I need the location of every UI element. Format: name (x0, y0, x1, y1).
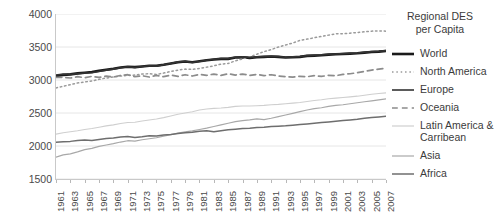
x-tick-mark (343, 180, 344, 183)
x-tick: 1989 (251, 180, 263, 216)
x-tick-mark (286, 180, 287, 183)
x-tick: 1993 (280, 180, 292, 216)
x-tick: 1997 (308, 180, 320, 216)
x-tick: 2005 (366, 180, 378, 216)
y-tick-label: 4000 (0, 9, 52, 19)
x-tick: 1973 (136, 180, 148, 216)
legend-item[interactable]: Africa (392, 168, 498, 180)
legend-swatch-icon (392, 48, 414, 59)
plot-area (56, 14, 386, 179)
x-tick: 2007 (380, 180, 392, 216)
x-tick: 2001 (337, 180, 349, 216)
x-tick: 1999 (323, 180, 335, 216)
x-tick-mark (171, 180, 172, 183)
x-tick-mark (214, 180, 215, 183)
legend-item-label: North America (420, 66, 487, 78)
x-tick: 2003 (351, 180, 363, 216)
series-line (56, 51, 386, 75)
x-tick-mark (372, 180, 373, 183)
legend-item-label: Asia (420, 150, 440, 162)
series-line (56, 116, 386, 142)
y-tick-label: 3000 (0, 75, 52, 85)
x-tick-mark (156, 180, 157, 183)
x-tick-mark (99, 180, 100, 183)
legend-item-label: Europe (420, 84, 454, 96)
x-tick: 1981 (193, 180, 205, 216)
x-tick-mark (314, 180, 315, 183)
x-tick: 1977 (165, 180, 177, 216)
x-tick-mark (113, 180, 114, 183)
legend-item[interactable]: Latin America &Carribean (392, 120, 498, 143)
x-tick-mark (128, 180, 129, 183)
y-tick-label: 3500 (0, 42, 52, 52)
x-tick: 1983 (208, 180, 220, 216)
x-tick: 1987 (237, 180, 249, 216)
x-tick: 1967 (93, 180, 105, 216)
legend-title-line2: per Capita (392, 23, 488, 36)
legend-item[interactable]: North America (392, 66, 498, 78)
y-axis-labels: 150020002500300035004000 (0, 0, 52, 218)
legend-items: WorldNorth AmericaEuropeOceaniaLatin Ame… (392, 48, 498, 179)
x-axis-labels: 1961196319651967196919711973197519771979… (56, 180, 386, 218)
x-tick-mark (56, 180, 57, 183)
legend-item[interactable]: World (392, 48, 498, 60)
y-tick-label: 2500 (0, 108, 52, 118)
x-tick: 1961 (50, 180, 62, 216)
legend-title: Regional DES per Capita (392, 10, 488, 36)
y-tick-label: 1500 (0, 174, 52, 184)
legend-swatch-icon (392, 150, 414, 161)
x-tick: 1965 (79, 180, 91, 216)
x-tick: 1991 (265, 180, 277, 216)
x-tick-mark (85, 180, 86, 183)
chart-figure: 150020002500300035004000 196119631965196… (0, 0, 500, 218)
series-canvas (56, 14, 386, 179)
x-tick-mark (329, 180, 330, 183)
x-tick: 1971 (122, 180, 134, 216)
legend-item-label: Latin America &Carribean (420, 120, 494, 143)
legend-item-label: World (420, 48, 447, 60)
x-tick-mark (185, 180, 186, 183)
x-tick: 1979 (179, 180, 191, 216)
legend-item[interactable]: Europe (392, 84, 498, 96)
chart-legend: Regional DES per Capita WorldNorth Ameri… (392, 10, 498, 186)
legend-swatch-icon (392, 102, 414, 113)
legend-item[interactable]: Asia (392, 150, 498, 162)
x-tick-mark (386, 180, 387, 183)
legend-swatch-icon (392, 66, 414, 77)
x-tick-mark (357, 180, 358, 183)
y-tick-label: 2000 (0, 141, 52, 151)
x-tick: 1963 (64, 180, 76, 216)
x-tick-mark (300, 180, 301, 183)
x-tick-mark (199, 180, 200, 183)
x-tick-mark (257, 180, 258, 183)
x-tick-mark (70, 180, 71, 183)
legend-item[interactable]: Oceania (392, 102, 498, 114)
x-tick: 1985 (222, 180, 234, 216)
x-tick-mark (243, 180, 244, 183)
x-tick-mark (142, 180, 143, 183)
series-line (56, 51, 386, 76)
legend-swatch-icon (392, 120, 414, 131)
legend-swatch-icon (392, 84, 414, 95)
legend-item-label: Oceania (420, 102, 459, 114)
legend-item-label: Africa (420, 168, 447, 180)
x-tick-label: 2007 (386, 191, 395, 212)
x-tick: 1995 (294, 180, 306, 216)
x-tick-mark (228, 180, 229, 183)
x-tick: 1969 (107, 180, 119, 216)
legend-swatch-icon (392, 168, 414, 179)
x-tick: 1975 (150, 180, 162, 216)
legend-title-line1: Regional DES (392, 10, 488, 23)
x-tick-mark (271, 180, 272, 183)
